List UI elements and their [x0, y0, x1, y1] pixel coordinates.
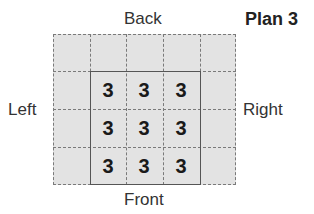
- label-left: Left: [8, 100, 36, 120]
- grid-area: 3 3 3 3 3 3 3 3 3: [53, 34, 236, 185]
- plan-cell: 3: [90, 147, 126, 185]
- plan-cell: 3: [126, 71, 162, 109]
- plan-cell: 3: [90, 71, 126, 109]
- label-right: Right: [243, 100, 283, 120]
- plan-cell: 3: [163, 71, 199, 109]
- plan-cell: 3: [163, 147, 199, 185]
- plan-cell: 3: [126, 109, 162, 147]
- label-back: Back: [124, 9, 162, 29]
- plan-cell: 3: [126, 147, 162, 185]
- plan-cell: 3: [90, 109, 126, 147]
- plan-cell: 3: [163, 109, 199, 147]
- plan-title: Plan 3: [245, 9, 298, 30]
- label-front: Front: [124, 190, 164, 210]
